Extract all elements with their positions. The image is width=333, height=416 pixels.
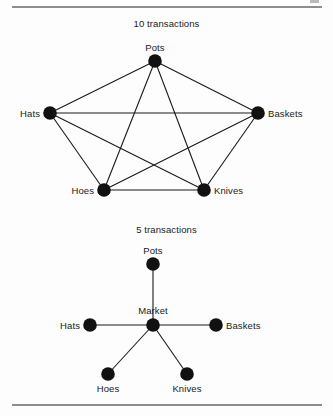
graph-node-pots[interactable] [148, 54, 162, 68]
page-canvas: 10 transactions PotsHatsBasketsHoesKnive… [0, 0, 333, 416]
graph-edge [50, 61, 155, 113]
graph-node-label-pots: Pots [145, 42, 164, 53]
graph-node-baskets[interactable] [251, 106, 265, 120]
header-rule [12, 6, 322, 8]
graph-node-knives[interactable] [197, 183, 211, 197]
page-corner-mark [310, 0, 319, 3]
graph-node-label-hoes: Hoes [71, 185, 94, 196]
graph-node-label-pots: Pots [143, 245, 162, 256]
graph-node-label-hats: Hats [20, 108, 40, 119]
graph-edge [155, 61, 258, 113]
graph-node-hoes[interactable] [97, 183, 111, 197]
graph-node-pots[interactable] [146, 257, 160, 271]
figure-star-graph: 5 transactions PotsMarketHatsBasketsHoes… [0, 220, 333, 400]
graph-edge [153, 325, 187, 374]
graph-node-label-hats: Hats [60, 320, 80, 331]
graph-edge [104, 61, 155, 190]
graph-node-label-baskets: Baskets [226, 320, 261, 331]
graph-edge [108, 325, 153, 374]
figure-complete-graph: 10 transactions PotsHatsBasketsHoesKnive… [0, 14, 333, 214]
graph-edge [155, 61, 204, 190]
graph-node-hoes[interactable] [101, 367, 115, 381]
graph-node-baskets[interactable] [209, 318, 223, 332]
footer-rule [12, 404, 322, 406]
graph-node-market[interactable] [146, 318, 160, 332]
graph-node-label-hoes: Hoes [97, 383, 120, 394]
graph-node-label-baskets: Baskets [268, 108, 303, 119]
graph-node-knives[interactable] [180, 367, 194, 381]
graph-node-hats[interactable] [43, 106, 57, 120]
graph-node-label-knives: Knives [214, 185, 243, 196]
graph-node-label-market: Market [138, 305, 168, 316]
graph-node-hats[interactable] [83, 318, 97, 332]
graph-edge [204, 113, 258, 190]
graph-node-label-knives: Knives [172, 383, 201, 394]
graph-edge [50, 113, 104, 190]
